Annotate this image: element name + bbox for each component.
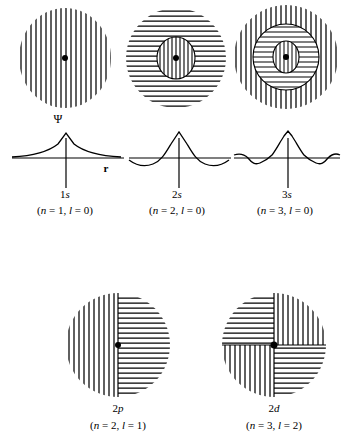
psi-axis-label: Ψ [44,112,72,127]
r-axis-label: r [95,162,117,174]
orbital-label-3s-letter: s [288,188,292,200]
quantum-numbers-1s: (n = 1, l = 0) [8,204,122,216]
wavefunction-plot-1s [8,126,128,188]
orbital-label-1s-letter: s [66,188,70,200]
quantum-numbers-2d: (n = 3, l = 2) [217,419,331,431]
quantum-numbers-2p: (n = 2, l = 1) [61,419,175,431]
orbital-label-2p: 2p [71,402,165,414]
orbital-label-2d: 2d [227,402,321,414]
psi-curve-3s [234,131,340,164]
wavefunction-plot-2s [121,126,233,188]
orbital-diagram-3s [231,0,342,114]
quantum-numbers-2s: (n = 2, l = 0) [120,204,234,216]
nucleus-dot-2s [173,55,179,61]
orbital-label-2s: 2s [130,188,224,200]
nucleus-dot-3s [283,54,289,60]
wavefunction-plot-3s [232,126,342,188]
nucleus-dot-2p [115,342,121,348]
orbital-label-2d-letter: d [274,402,280,414]
orbital-diagram-2s [121,2,231,114]
orbital-diagram-2p [64,292,172,398]
orbital-diagram-2d [220,292,328,398]
nucleus-dot-2d [271,342,278,349]
orbital-label-3s: 3s [240,188,334,200]
orbital-figure: Ψ r 1s (n = 1, l = 0) 2s (n = 2, l = 0) … [0,0,342,443]
orbital-diagram-1s [10,2,120,114]
orbital-label-2p-letter: p [118,402,124,414]
orbital-label-2s-letter: s [178,188,182,200]
orbital-label-1s: 1s [18,188,112,200]
hatch-vertical-2p-left [69,292,114,398]
quantum-numbers-3s: (n = 3, l = 0) [228,204,342,216]
nucleus-dot-1s [62,55,68,61]
